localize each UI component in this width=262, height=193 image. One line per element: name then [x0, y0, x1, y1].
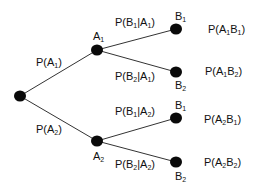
node-a1-b2 — [170, 67, 182, 78]
node-a2 — [91, 136, 103, 147]
edge-label-p-b1-given-a2: P(B1|A2) — [115, 106, 155, 118]
edge-a1-b2 — [97, 50, 176, 72]
label-a2-b1: B1 — [175, 100, 186, 112]
edge-label-p-b2-given-a2: P(B2|A2) — [115, 159, 155, 171]
edge-label-p-b1-given-a1: P(B1|A1) — [115, 17, 155, 29]
label-a2-b2: B2 — [175, 171, 186, 183]
node-a1 — [91, 45, 103, 56]
label-a1-b1: B1 — [175, 11, 186, 23]
edge-a1-b1 — [97, 29, 176, 50]
node-a2-b2 — [170, 157, 182, 168]
node-a1-b1 — [170, 24, 182, 35]
edge-a2-b1 — [97, 118, 176, 141]
outcome-p-a1-b1: P(A1B1) — [208, 24, 245, 36]
edge-label-p-b2-given-a1: P(B2|A1) — [115, 71, 155, 83]
label-a1-b2: B2 — [175, 80, 186, 92]
outcome-p-a2-b1: P(A2B1) — [204, 114, 241, 126]
label-a2: A2 — [93, 151, 104, 163]
node-a2-b1 — [170, 113, 182, 124]
label-a1: A1 — [93, 31, 104, 43]
outcome-p-a2-b2: P(A2B2) — [204, 157, 241, 169]
edge-label-p-a2: P(A2) — [36, 124, 62, 136]
node-root — [14, 91, 26, 102]
edge-label-p-a1: P(A1) — [36, 57, 62, 69]
outcome-p-a1-b2: P(A1B2) — [205, 66, 242, 78]
